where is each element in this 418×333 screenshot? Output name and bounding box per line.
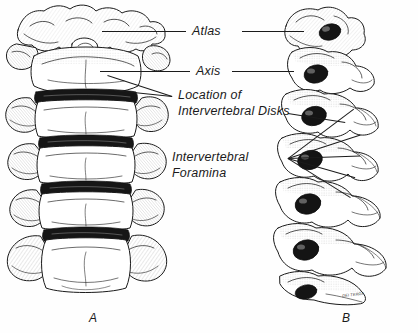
panel-label-a: A [89,311,97,325]
leader-atlas-right [242,31,304,32]
panel-a-illustration [0,0,185,315]
label-foramina-line1: Intervertebral [172,150,248,164]
leader-axis-left [100,71,190,72]
anatomy-figure: Atlas Axis Location of Intervertebral Di… [0,0,418,333]
leader-axis-right [232,71,294,72]
label-foramina-line2: Foramina [172,166,226,180]
leader-atlas-left [102,31,186,32]
label-axis: Axis [196,64,220,78]
label-disks-line1: Location of [178,88,241,102]
panel-label-b: B [342,311,350,325]
panel-b-illustration [256,0,418,315]
label-disks-line2: Intervertebral Disks [178,104,290,118]
label-atlas: Atlas [192,24,221,38]
